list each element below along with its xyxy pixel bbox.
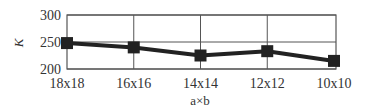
x-tick-label: 12x12 bbox=[250, 76, 285, 91]
data-point-marker bbox=[195, 50, 207, 62]
x-tick-label: 10x10 bbox=[317, 76, 352, 91]
y-tick-labels: 200250300 bbox=[40, 8, 61, 77]
y-tick-label: 300 bbox=[40, 8, 61, 23]
x-tick-label: 14x14 bbox=[183, 76, 218, 91]
y-tick-label: 200 bbox=[40, 62, 61, 77]
line-chart: 200250300 18x1816x1614x1412x1210x10 K a×… bbox=[0, 0, 366, 112]
data-point-marker bbox=[261, 45, 273, 57]
data-point-marker bbox=[328, 55, 340, 67]
x-tick-labels: 18x1816x1614x1412x1210x10 bbox=[50, 76, 352, 91]
x-tick-label: 18x18 bbox=[50, 76, 85, 91]
data-point-marker bbox=[128, 41, 140, 53]
x-tick-label: 16x16 bbox=[116, 76, 151, 91]
data-point-marker bbox=[61, 37, 73, 49]
x-axis-title: a×b bbox=[190, 93, 210, 108]
y-axis-title: K bbox=[11, 37, 26, 48]
y-tick-label: 250 bbox=[40, 35, 61, 50]
